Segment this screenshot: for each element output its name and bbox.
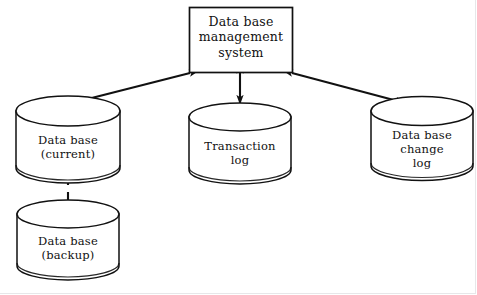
node-label-dbms: Data base management system bbox=[191, 14, 291, 60]
node-label-transaction-log: Transaction log bbox=[190, 139, 290, 167]
node-label-db-change-log: Data base change log bbox=[372, 128, 472, 170]
node-label-db-current: Data base (current) bbox=[18, 133, 118, 161]
connector-dbms-to-db-change-log bbox=[292, 73, 405, 103]
diagram-canvas: Data base management system Data base (c… bbox=[0, 0, 477, 295]
node-label-db-backup: Data base (backup) bbox=[18, 234, 118, 262]
